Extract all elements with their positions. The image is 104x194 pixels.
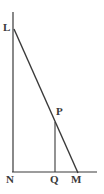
vertex-label-L: L bbox=[3, 22, 10, 33]
hypotenuse-line-LM bbox=[14, 29, 78, 173]
geometry-figure: L P N Q M bbox=[0, 0, 104, 194]
figure-canvas bbox=[0, 0, 104, 194]
vertex-label-N: N bbox=[6, 174, 14, 185]
vertex-label-P: P bbox=[56, 106, 63, 117]
vertex-label-Q: Q bbox=[50, 174, 59, 185]
vertex-label-M: M bbox=[71, 174, 81, 185]
